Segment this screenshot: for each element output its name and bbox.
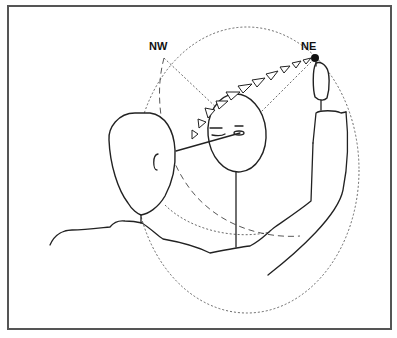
arrow-icon (192, 130, 198, 139)
label-ne: NE (301, 40, 316, 52)
arrow-icon (292, 61, 301, 68)
arrow-icon (252, 78, 265, 87)
arrow-icon (266, 71, 278, 80)
sound-source-dot (311, 54, 319, 62)
label-nw: NW (149, 40, 168, 52)
listener-shoulders (50, 143, 313, 253)
arrow-icon (280, 66, 290, 73)
forearm (313, 111, 346, 143)
target-head (205, 92, 270, 175)
diagram-frame (8, 6, 391, 329)
arm-right-contour (268, 112, 348, 275)
equator-arc (165, 205, 270, 235)
arrow-icon (198, 119, 206, 128)
sound-localization-diagram: NW NE (0, 0, 397, 338)
listener-head (109, 113, 175, 215)
hand (313, 63, 329, 100)
